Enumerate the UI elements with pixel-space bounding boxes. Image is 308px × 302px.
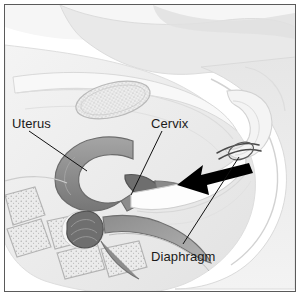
label-cervix: Cervix — [151, 117, 188, 130]
label-uterus: Uterus — [12, 117, 51, 130]
label-diaphragm: Diaphragm — [151, 250, 216, 263]
structure-rectum-coil — [62, 211, 104, 249]
figure-frame: Uterus Cervix Diaphragm — [4, 4, 296, 292]
illustration-canvas — [5, 5, 295, 291]
anatomical-figure: Uterus Cervix Diaphragm — [0, 0, 308, 302]
